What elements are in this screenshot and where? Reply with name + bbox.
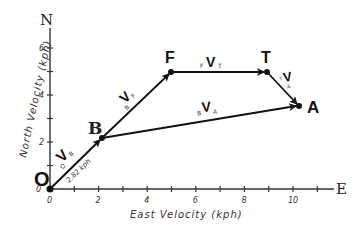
y-axis-end-label: N — [40, 11, 53, 29]
x-tick-labels: 0246810 — [47, 196, 298, 205]
label-V-TA: V T A — [277, 69, 294, 91]
x-tick-label: 0 — [47, 196, 52, 205]
x-tick-label: 4 — [144, 196, 149, 205]
x-tick-label: 10 — [288, 196, 298, 205]
point-label-O: O — [34, 168, 50, 190]
x-tick-label: 2 — [96, 196, 101, 205]
svg-text:V: V — [206, 54, 216, 70]
point-label-F: F — [165, 49, 175, 66]
point-label-A: A — [307, 98, 319, 117]
y-axis-title: North Velocity (kph) — [17, 39, 53, 159]
point-T — [264, 69, 270, 75]
label-V-BF: V B F — [114, 85, 140, 111]
x-axis-title: East Velocity (kph) — [130, 209, 243, 220]
diagram-canvas: 0246810 0246 E N East Velocity (kph) Nor… — [0, 0, 362, 229]
svg-text:B: B — [197, 109, 202, 116]
point-label-T: T — [261, 49, 271, 66]
velocity-vector-diagram: 0246810 0246 E N East Velocity (kph) Nor… — [0, 0, 362, 229]
x-axis-end-label: E — [336, 180, 347, 198]
svg-text:B: B — [123, 103, 131, 111]
svg-text:A: A — [286, 83, 291, 90]
point-A — [296, 103, 302, 109]
svg-text:V: V — [201, 98, 212, 115]
axes: 0246810 0246 E N East Velocity (kph) Nor… — [17, 11, 347, 220]
y-tick-label: 2 — [39, 138, 44, 147]
x-tick-label: 8 — [241, 196, 246, 205]
point-F — [168, 69, 174, 75]
label-V-FT: V F T — [200, 54, 222, 70]
label-V-BA: V B A — [196, 98, 218, 117]
point-label-B: B — [88, 118, 102, 138]
svg-text:T: T — [217, 62, 222, 69]
svg-text:A: A — [213, 108, 219, 115]
svg-text:F: F — [200, 62, 204, 69]
x-tick-label: 6 — [193, 196, 198, 205]
